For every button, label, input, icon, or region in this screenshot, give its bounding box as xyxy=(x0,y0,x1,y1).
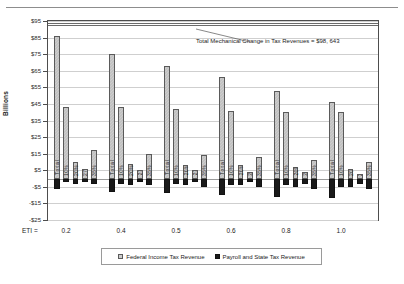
bar-value-label: Total xyxy=(54,159,60,175)
x-axis-tick-label: 0.4 xyxy=(117,227,126,234)
payroll-state-tax-bar xyxy=(247,179,253,182)
bar-value-label: Total xyxy=(164,159,170,175)
payroll-state-tax-bar xyxy=(201,179,207,187)
payroll-state-tax-bar xyxy=(192,179,198,182)
payroll-state-tax-bar xyxy=(357,179,363,184)
chart-legend: Federal Income Tax RevenuePayroll and St… xyxy=(101,248,322,265)
payroll-state-tax-bar xyxy=(54,179,60,189)
bar-value-label: 27% xyxy=(192,171,198,175)
federal-income-tax-bar xyxy=(54,36,60,179)
bar-group: Total10%20%27%35% xyxy=(213,21,268,220)
bar-value-label: Total xyxy=(329,159,335,175)
bar-value-label: 35% xyxy=(256,165,262,176)
bar-value-label: 35% xyxy=(366,165,372,176)
x-axis-tick-label: 0.8 xyxy=(282,227,291,234)
y-axis-tick-label: $5 xyxy=(34,167,41,174)
payroll-state-tax-bar xyxy=(183,179,189,186)
payroll-state-tax-bar xyxy=(73,179,79,184)
bar-value-label: 20% xyxy=(128,165,134,176)
payroll-state-tax-bar xyxy=(302,179,308,184)
y-axis-tick-label: $55 xyxy=(31,84,41,91)
y-axis-tick-label: $65 xyxy=(31,67,41,74)
bar-group: Total10%20%27%35% xyxy=(158,21,213,220)
y-axis-tick-label: $25 xyxy=(31,134,41,141)
bar-value-label: 27% xyxy=(247,173,253,176)
y-axis-tick-label: $95 xyxy=(31,18,41,25)
payroll-state-tax-bar xyxy=(91,179,97,184)
bar-value-label: 20% xyxy=(183,166,189,175)
bar-value-label: 10% xyxy=(173,165,179,176)
gridline xyxy=(48,220,378,221)
bar-value-label: 35% xyxy=(91,165,97,176)
x-axis: ETI = 0.20.40.50.60.81.0 xyxy=(0,222,404,244)
x-axis-title: ETI = xyxy=(22,227,38,234)
bar-value-label: 35% xyxy=(201,165,207,176)
y-axis-tick-label: $45 xyxy=(31,100,41,107)
payroll-state-tax-bar xyxy=(293,179,299,187)
y-axis-tick-label: $15 xyxy=(31,150,41,157)
bar-value-label: 27% xyxy=(82,170,88,176)
legend-swatch xyxy=(118,254,123,259)
annotation-label: Total Mechanical Change in Tax Revenues … xyxy=(196,38,339,44)
bar-value-label: 27% xyxy=(302,173,308,176)
x-axis-tick-label: 0.5 xyxy=(172,227,181,234)
y-axis-tick-label: -$15 xyxy=(29,200,41,207)
bar-value-label: 10% xyxy=(63,165,69,176)
bar-value-label: 20% xyxy=(238,166,244,175)
bar-value-label: 10% xyxy=(283,165,289,176)
bar-value-label: 20% xyxy=(73,165,79,176)
bar-value-label: 27% xyxy=(357,175,363,176)
bar-value-label: Total xyxy=(109,159,115,175)
bar-value-label: 20% xyxy=(293,168,299,176)
payroll-state-tax-bar xyxy=(311,179,317,189)
payroll-state-tax-bar xyxy=(348,179,354,187)
bar-value-label: 10% xyxy=(118,165,124,176)
chart-figure: Billions $95$85$75$65$55$45$35$25$15$5-$… xyxy=(0,0,404,284)
payroll-state-tax-bar xyxy=(128,179,134,186)
payroll-state-tax-bar xyxy=(118,179,124,184)
bar-group: Total10%20%27%35% xyxy=(48,21,103,220)
payroll-state-tax-bar xyxy=(238,179,244,186)
legend-item: Payroll and State Tax Revenue xyxy=(215,254,305,260)
legend-label: Payroll and State Tax Revenue xyxy=(223,254,305,260)
y-axis-tick-label: $85 xyxy=(31,34,41,41)
payroll-state-tax-bar xyxy=(256,179,262,187)
payroll-state-tax-bar xyxy=(173,179,179,184)
payroll-state-tax-bar xyxy=(228,179,234,186)
payroll-state-tax-bar xyxy=(329,179,335,199)
bar-value-label: Total xyxy=(274,159,280,175)
legend-label: Federal Income Tax Revenue xyxy=(126,254,204,260)
bar-value-label: Total xyxy=(219,159,225,175)
payroll-state-tax-bar xyxy=(164,179,170,194)
payroll-state-tax-bar xyxy=(338,179,344,187)
bar-value-label: 10% xyxy=(228,165,234,176)
y-axis: Billions $95$85$75$65$55$45$35$25$15$5-$… xyxy=(0,20,47,221)
plot-inner: Total10%20%27%35%Total10%20%27%35%Total1… xyxy=(48,21,378,220)
payroll-state-tax-bar xyxy=(219,179,225,196)
payroll-state-tax-bar xyxy=(63,179,69,182)
legend-swatch xyxy=(215,254,220,259)
top-divider xyxy=(6,7,398,8)
bar-value-label: 27% xyxy=(137,171,143,175)
bar-value-label: 35% xyxy=(146,165,152,176)
x-axis-tick-label: 1.0 xyxy=(337,227,346,234)
legend-item: Federal Income Tax Revenue xyxy=(118,254,204,260)
plot-area: Total10%20%27%35%Total10%20%27%35%Total1… xyxy=(47,20,379,221)
payroll-state-tax-bar xyxy=(274,179,280,197)
bar-group: Total10%20%27%35% xyxy=(323,21,378,220)
bar-value-label: 35% xyxy=(311,165,317,176)
y-axis-tick-label: $75 xyxy=(31,51,41,58)
payroll-state-tax-bar xyxy=(283,179,289,186)
payroll-state-tax-bar xyxy=(137,179,143,182)
x-axis-tick-label: 0.6 xyxy=(227,227,236,234)
payroll-state-tax-bar xyxy=(146,179,152,186)
payroll-state-tax-bar xyxy=(82,179,88,182)
y-axis-title: Billions xyxy=(2,91,9,116)
payroll-state-tax-bar xyxy=(109,179,115,192)
payroll-state-tax-bar xyxy=(366,179,372,189)
bar-value-label: 10% xyxy=(338,165,344,176)
x-axis-tick-label: 0.2 xyxy=(62,227,71,234)
y-axis-tick-label: -$5 xyxy=(32,183,41,190)
bar-group: Total10%20%27%35% xyxy=(103,21,158,220)
bar-group: Total10%20%27%35% xyxy=(268,21,323,220)
